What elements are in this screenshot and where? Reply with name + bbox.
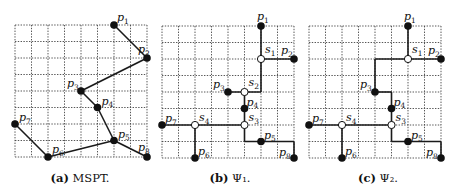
terminal-label-p1: p1 (404, 10, 416, 25)
terminal-point-p8 (437, 154, 445, 162)
terminal-label-p6: p6 (345, 145, 357, 160)
terminal-label-p5: p5 (264, 129, 276, 144)
steiner-label-s1: s1 (412, 43, 422, 58)
terminal-label-p6: p6 (198, 145, 210, 160)
caption-c-text: Ψ₂. (380, 171, 398, 185)
terminal-label-p4: p4 (247, 96, 259, 111)
panel-a: p1p2p3p4p5p6p7p8 (11, 11, 151, 161)
steiner-label-s1: s1 (265, 43, 275, 58)
terminal-label-p2: p2 (138, 43, 150, 58)
terminal-label-p7: p7 (312, 112, 324, 127)
caption-b-tag: (b) (210, 171, 229, 185)
terminal-point-p7 (11, 120, 19, 128)
terminal-label-p5: p5 (411, 129, 423, 144)
steiner-label-s4: s4 (346, 111, 357, 126)
steiner-label-s2: s2 (249, 76, 260, 91)
terminal-label-p4: p4 (394, 96, 406, 111)
caption-b: (b) Ψ₁. (155, 171, 305, 185)
terminal-label-p8: p8 (426, 146, 438, 161)
terminal-point-p6 (44, 153, 52, 161)
terminal-label-p2: p2 (428, 44, 440, 59)
panel-c: s1s3s4p1p2p3p4p5p6p7p8 (305, 10, 445, 162)
terminal-point-p5 (110, 137, 118, 145)
steiner-label-s4: s4 (199, 111, 210, 126)
terminal-point-p3 (371, 88, 379, 96)
terminal-label-p7: p7 (19, 111, 31, 126)
terminal-label-p8: p8 (279, 146, 291, 161)
terminal-label-p5: p5 (118, 128, 130, 143)
caption-b-text: Ψ₁. (232, 171, 250, 185)
steiner-label-s3: s3 (249, 111, 260, 126)
terminal-label-p7: p7 (165, 112, 177, 127)
terminal-label-p6: p6 (52, 143, 64, 158)
terminal-point-p8 (290, 154, 298, 162)
steiner-point-s3 (241, 121, 248, 128)
caption-a: (a) MSPT. (5, 171, 155, 185)
caption-a-text: MSPT. (72, 171, 109, 185)
terminal-label-p3: p3 (360, 78, 372, 93)
terminal-label-p2: p2 (281, 44, 293, 59)
terminal-label-p8: p8 (138, 141, 150, 156)
steiner-point-s1 (404, 55, 411, 62)
terminal-label-p1: p1 (257, 10, 269, 25)
steiner-label-s3: s3 (396, 111, 407, 126)
terminal-label-p3: p3 (67, 77, 79, 92)
terminal-label-p1: p1 (117, 11, 129, 26)
terminal-label-p3: p3 (213, 78, 225, 93)
panel-b: s1s2s3s4p1p2p3p4p5p6p7p8 (158, 10, 298, 162)
terminal-label-p4: p4 (102, 95, 114, 110)
caption-c: (c) Ψ₂. (303, 171, 453, 185)
steiner-point-s3 (388, 121, 395, 128)
steiner-point-s4 (338, 121, 345, 128)
terminal-point-p4 (94, 104, 102, 112)
steiner-point-s4 (191, 121, 198, 128)
diagram-canvas: p1p2p3p4p5p6p7p8s1s2s3s4p1p2p3p4p5p6p7p8… (0, 0, 454, 195)
steiner-point-s1 (257, 55, 264, 62)
caption-c-tag: (c) (358, 171, 376, 185)
caption-a-tag: (a) (50, 171, 68, 185)
terminal-point-p3 (224, 88, 232, 96)
